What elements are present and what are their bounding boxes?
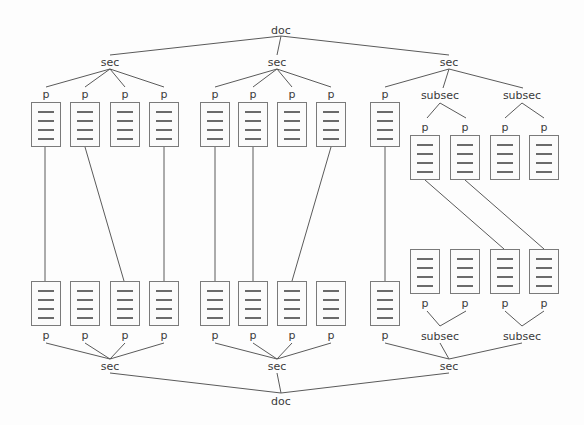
paragraph-doc-icon [490,249,520,294]
paragraph-doc-icon [410,135,440,180]
bottom-sec-2-label: sec [268,361,287,372]
bottom-sec-1-label: sec [101,361,120,372]
paragraph-doc-icon [149,102,179,147]
top-p-label: p [250,89,257,100]
top-p-label: p [382,89,389,100]
paragraph-doc-icon [529,135,559,180]
bottom-doc-label: doc [271,396,291,407]
bottom-p-label: p [43,330,50,341]
connector-lines [0,0,584,425]
top-doc-label: doc [271,25,291,36]
paragraph-doc-icon [238,281,268,326]
paragraph-doc-icon [529,249,559,294]
top-p-label: p [43,89,50,100]
bottom-p-label: p [422,298,429,309]
top-sec-3-label: sec [440,57,459,68]
bottom-p-label: p [502,298,509,309]
bottom-p-label: p [289,330,296,341]
document-alignment-diagram: doc sec sec sec subsec subsec p p p p p … [0,0,584,425]
bottom-p-label: p [161,330,168,341]
paragraph-doc-icon [316,102,346,147]
paragraph-doc-icon [490,135,520,180]
top-p-label: p [328,89,335,100]
top-subsec-2-label: subsec [503,90,541,101]
bottom-p-label: p [328,330,335,341]
paragraph-doc-icon [200,102,230,147]
paragraph-doc-icon [370,102,400,147]
bottom-subsec-1-label: subsec [421,331,459,342]
paragraph-doc-icon [450,135,480,180]
paragraph-doc-icon [70,281,100,326]
bottom-p-label: p [541,298,548,309]
paragraph-doc-icon [450,249,480,294]
top-sec-2-label: sec [268,57,287,68]
bottom-p-label: p [82,330,89,341]
top-sec-1-label: sec [101,57,120,68]
bottom-p-label: p [382,330,389,341]
paragraph-doc-icon [149,281,179,326]
top-p-label: p [122,89,129,100]
paragraph-doc-icon [316,281,346,326]
top-p-label: p [289,89,296,100]
top-p-label: p [462,122,469,133]
paragraph-doc-icon [31,102,61,147]
paragraph-doc-icon [370,281,400,326]
top-p-label: p [82,89,89,100]
paragraph-doc-icon [200,281,230,326]
paragraph-doc-icon [277,281,307,326]
bottom-p-label: p [462,298,469,309]
top-p-label: p [502,122,509,133]
paragraph-doc-icon [410,249,440,294]
bottom-p-label: p [122,330,129,341]
bottom-sec-3-label: sec [440,361,459,372]
paragraph-doc-icon [238,102,268,147]
paragraph-doc-icon [31,281,61,326]
paragraph-doc-icon [70,102,100,147]
bottom-subsec-2-label: subsec [503,331,541,342]
top-subsec-1-label: subsec [421,90,459,101]
top-p-label: p [212,89,219,100]
paragraph-doc-icon [110,102,140,147]
paragraph-doc-icon [110,281,140,326]
bottom-p-label: p [250,330,257,341]
paragraph-doc-icon [277,102,307,147]
top-p-label: p [161,89,168,100]
top-p-label: p [422,122,429,133]
top-p-label: p [541,122,548,133]
bottom-p-label: p [212,330,219,341]
